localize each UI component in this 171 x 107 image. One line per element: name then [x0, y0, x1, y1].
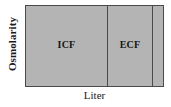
compartment-third-space	[152, 6, 163, 86]
compartment-ecf-label: ECF	[120, 39, 141, 50]
x-axis-label: Liter	[25, 89, 164, 101]
compartment-ecf: ECF	[107, 6, 152, 86]
x-axis-label-text: Liter	[84, 89, 105, 101]
y-axis-label: Osmolarity	[0, 0, 24, 88]
compartment-icf-label: ICF	[58, 39, 76, 50]
fluid-compartment-diagram: Osmolarity ICF ECF Liter	[0, 0, 171, 107]
compartment-box: ICF ECF	[25, 5, 164, 87]
y-axis-label-text: Osmolarity	[6, 17, 18, 71]
compartment-icf: ICF	[26, 6, 107, 86]
